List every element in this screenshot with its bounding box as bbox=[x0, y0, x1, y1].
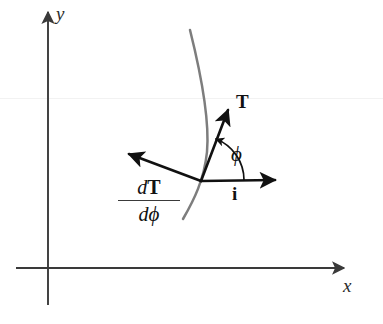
derivative-denominator: dϕ bbox=[118, 202, 180, 225]
axes-group bbox=[16, 12, 344, 305]
tangent-vector-label: T bbox=[236, 92, 249, 111]
diagram-canvas bbox=[0, 0, 383, 324]
y-axis-label: y bbox=[56, 4, 64, 23]
numerator-d: d bbox=[137, 176, 147, 198]
tangent-vector-arrow bbox=[201, 110, 228, 181]
derivative-vector-label: dT dϕ bbox=[118, 177, 180, 225]
path-curve bbox=[183, 30, 208, 219]
unit-i-vector-label: i bbox=[232, 184, 237, 203]
denominator-phi: ϕ bbox=[149, 202, 160, 226]
x-axis-label: x bbox=[343, 276, 351, 295]
fraction-bar bbox=[118, 200, 180, 201]
denominator-d: d bbox=[139, 203, 149, 225]
unit-i-vector-arrow bbox=[201, 180, 275, 181]
phi-angle-label: ϕ bbox=[231, 144, 242, 165]
derivative-numerator: dT bbox=[118, 177, 180, 199]
vectors-group bbox=[129, 110, 275, 181]
figure-root: y x T i ϕ dT dϕ bbox=[0, 0, 383, 324]
numerator-T: T bbox=[147, 176, 160, 198]
